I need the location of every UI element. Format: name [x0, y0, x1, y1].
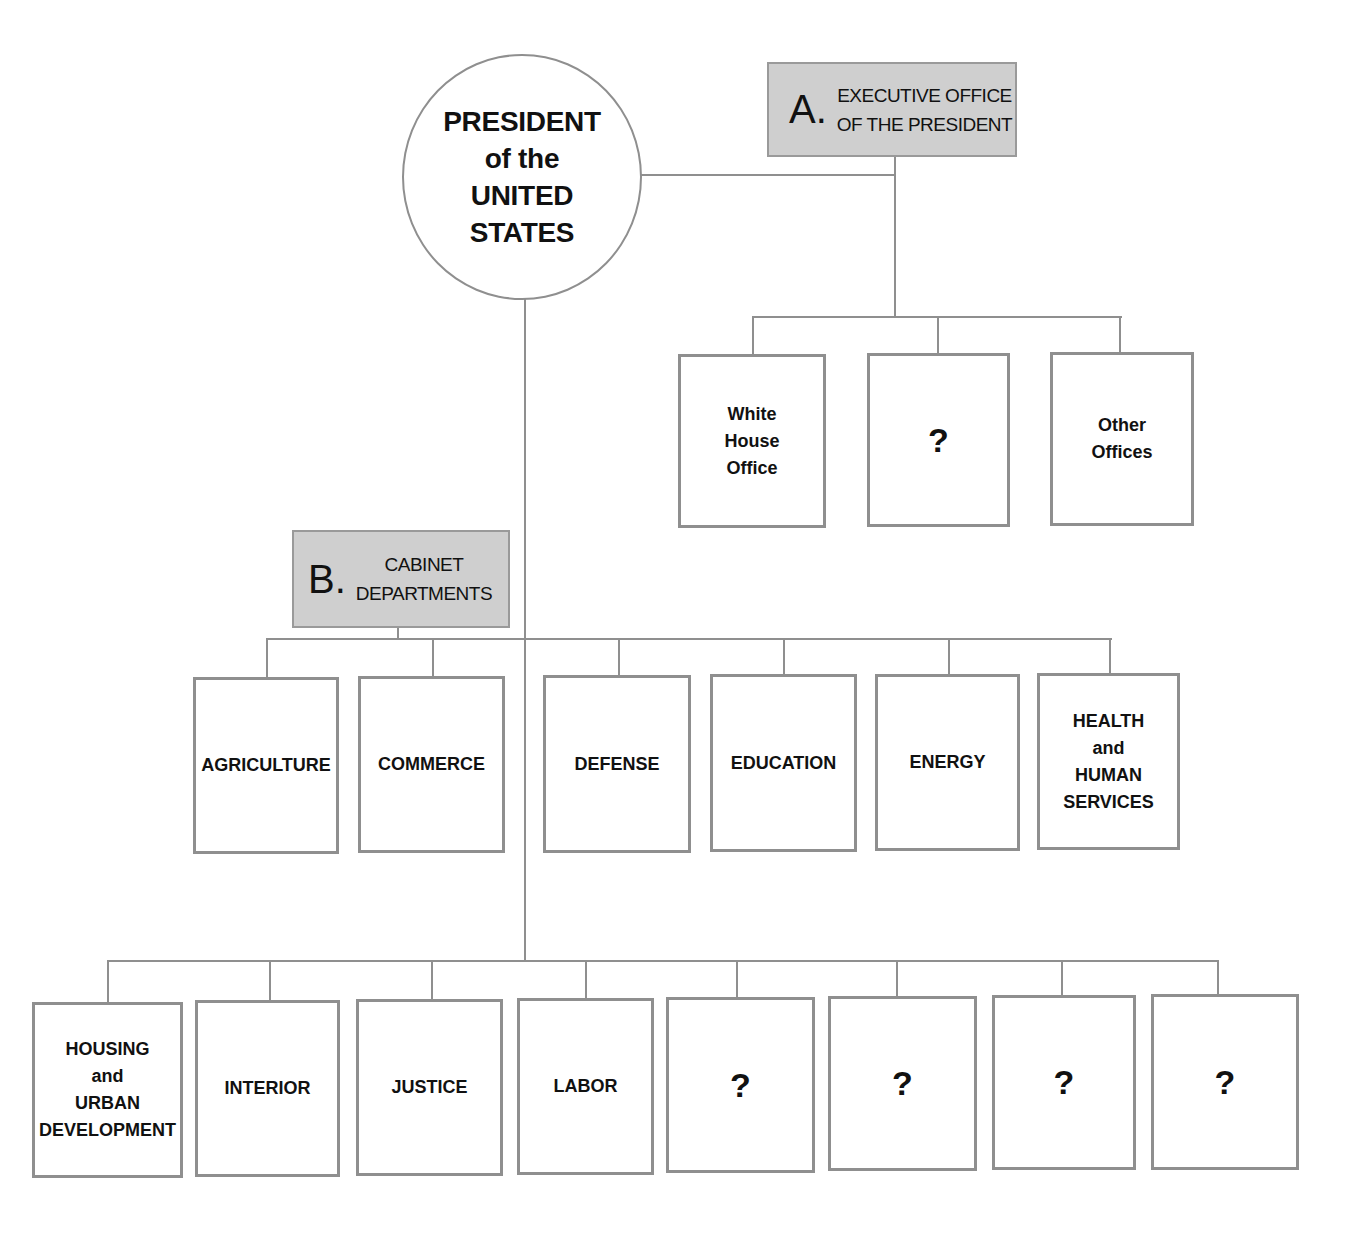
- dept-labor: LABOR: [517, 998, 654, 1175]
- connector-r1-4: [783, 638, 785, 676]
- question-mark: ?: [730, 1066, 751, 1105]
- eop-box-other-offices: Other Offices: [1050, 352, 1194, 526]
- eop-box-unknown: ?: [867, 353, 1010, 527]
- dept-health-human-services: HEALTH and HUMAN SERVICES: [1037, 673, 1180, 850]
- eop-box-label: White House Office: [724, 401, 779, 482]
- connector-r2-7: [1061, 960, 1063, 996]
- dept-label: JUSTICE: [391, 1074, 467, 1101]
- eop-box-white-house-office: White House Office: [678, 354, 826, 528]
- dept-education: EDUCATION: [710, 674, 857, 852]
- dept-label: INTERIOR: [224, 1075, 310, 1102]
- connector-eop-child-3: [1119, 316, 1121, 354]
- section-a-letter: A.: [789, 87, 827, 132]
- dept-unknown-1: ?: [666, 997, 815, 1173]
- dept-label: ENERGY: [909, 749, 985, 776]
- connector-r1-5: [948, 638, 950, 676]
- connector-president-trunk: [524, 296, 526, 960]
- president-node: PRESIDENT of the UNITED STATES: [402, 54, 642, 300]
- connector-eop-trunk: [894, 156, 896, 318]
- dept-energy: ENERGY: [875, 674, 1020, 851]
- dept-unknown-4: ?: [1151, 994, 1299, 1170]
- connector-r1-2: [432, 638, 434, 678]
- connector-r1-6: [1109, 638, 1111, 676]
- connector-r2-8: [1217, 960, 1219, 996]
- connector-president-to-eop: [638, 174, 896, 176]
- dept-label: EDUCATION: [731, 750, 837, 777]
- dept-label: AGRICULTURE: [201, 752, 331, 779]
- connector-cabinet-bus-2: [107, 960, 1219, 962]
- eop-box-label: Other Offices: [1091, 412, 1152, 466]
- section-b-letter: B.: [308, 557, 346, 602]
- dept-label: HOUSING and URBAN DEVELOPMENT: [39, 1036, 176, 1144]
- question-mark: ?: [1054, 1063, 1075, 1102]
- dept-justice: JUSTICE: [356, 999, 503, 1176]
- section-b-title: CABINET DEPARTMENTS: [356, 550, 492, 608]
- dept-unknown-2: ?: [828, 996, 977, 1171]
- connector-r2-2: [269, 960, 271, 1002]
- connector-r2-6: [896, 960, 898, 998]
- connector-r2-3: [431, 960, 433, 1000]
- president-label: PRESIDENT of the UNITED STATES: [443, 103, 601, 251]
- connector-r1-1: [266, 638, 268, 678]
- dept-commerce: COMMERCE: [358, 676, 505, 853]
- question-mark: ?: [1215, 1063, 1236, 1102]
- dept-interior: INTERIOR: [195, 1000, 340, 1177]
- connector-r2-1: [107, 960, 109, 1004]
- dept-label: LABOR: [554, 1073, 618, 1100]
- dept-defense: DEFENSE: [543, 675, 691, 853]
- section-b-label: B. CABINET DEPARTMENTS: [292, 530, 510, 628]
- connector-eop-child-1: [752, 316, 754, 356]
- dept-unknown-3: ?: [992, 995, 1136, 1170]
- dept-housing-urban-development: HOUSING and URBAN DEVELOPMENT: [32, 1002, 183, 1178]
- dept-label: HEALTH and HUMAN SERVICES: [1063, 708, 1154, 816]
- section-a-title: EXECUTIVE OFFICE OF THE PRESIDENT: [837, 81, 1012, 139]
- connector-r2-4: [585, 960, 587, 1000]
- dept-label: DEFENSE: [574, 751, 659, 778]
- connector-r2-5: [736, 960, 738, 998]
- connector-cabinet-bus-1: [266, 638, 1112, 640]
- section-a-label: A. EXECUTIVE OFFICE OF THE PRESIDENT: [767, 62, 1017, 157]
- question-mark: ?: [928, 421, 949, 460]
- connector-eop-child-2: [937, 316, 939, 354]
- dept-agriculture: AGRICULTURE: [193, 677, 339, 854]
- connector-r1-3: [618, 638, 620, 678]
- question-mark: ?: [892, 1064, 913, 1103]
- dept-label: COMMERCE: [378, 751, 485, 778]
